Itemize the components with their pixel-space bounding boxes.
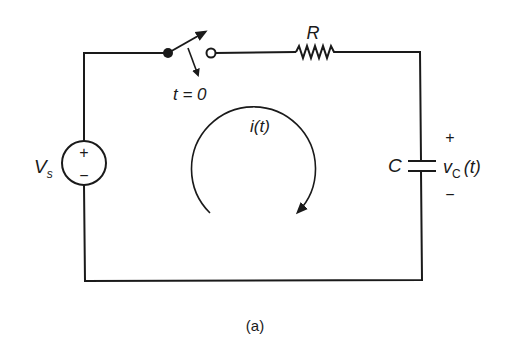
capacitor-minus-sign: − <box>445 186 454 203</box>
voltage-source: + − Vs <box>34 141 106 185</box>
current-label: i(t) <box>250 117 270 136</box>
wire-left-top <box>84 53 168 141</box>
current-loop: i(t) <box>192 107 316 213</box>
resistor: R <box>296 23 338 58</box>
switch-blade <box>168 32 205 53</box>
source-label: Vs <box>34 156 53 181</box>
source-label-sub: s <box>47 167 53 181</box>
capacitor-label: C <box>388 155 402 176</box>
switch-time-label: t = 0 <box>173 85 207 104</box>
capacitor: C + − vC(t) <box>388 129 481 203</box>
figure-caption: (a) <box>246 317 264 334</box>
wire-right-top <box>338 52 421 161</box>
switch-contact <box>207 49 216 58</box>
rc-circuit-diagram: + − Vs t = 0 R C + − vC(t) i(t) (a) <box>0 0 513 351</box>
source-minus-sign: − <box>79 167 88 184</box>
switch: t = 0 <box>163 32 216 104</box>
wires <box>84 52 422 281</box>
capacitor-plus-sign: + <box>445 129 454 146</box>
capacitor-voltage-label: vC(t) <box>443 157 481 181</box>
switch-closing-arrow <box>188 48 198 75</box>
wire-bottom <box>84 171 422 281</box>
capacitor-voltage-arg: (t) <box>464 157 481 177</box>
capacitor-voltage-sub: C <box>452 167 461 181</box>
wire-top-middle <box>215 52 296 53</box>
resistor-label: R <box>307 23 320 43</box>
resistor-zigzag <box>296 46 338 58</box>
source-plus-sign: + <box>79 144 88 161</box>
